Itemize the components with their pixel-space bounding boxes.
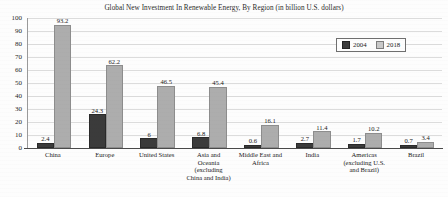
bar-value-label: 1.7: [353, 137, 361, 144]
bar-2004[interactable]: 2.7: [296, 143, 314, 149]
x-category-label-line: Africa: [231, 159, 291, 167]
x-category-label-line: Brazil: [386, 151, 446, 159]
bar-group: 0.616.1: [235, 18, 287, 148]
chart-title: Global New Investment In Renewable Energ…: [0, 4, 448, 12]
bar-group: 646.5: [131, 18, 183, 148]
bar-value-label: 3.4: [421, 135, 429, 142]
legend-item-2018[interactable]: 2018: [376, 41, 401, 49]
chart-legend: 2004 2018: [336, 38, 406, 52]
bar-value-label: 6: [148, 132, 151, 139]
bar-2018[interactable]: 16.1: [261, 125, 279, 148]
bar-value-label: 16.1: [264, 118, 276, 125]
bar-2018[interactable]: 46.5: [157, 86, 175, 148]
y-tick-label: 90: [15, 28, 22, 35]
bar-value-label: 0.7: [404, 138, 412, 145]
bar-2004[interactable]: 6: [140, 138, 158, 148]
bar-2018[interactable]: 62.2: [106, 65, 124, 148]
bar-2018[interactable]: 10.2: [365, 133, 383, 148]
bar-group: 6.845.4: [183, 18, 235, 148]
bar-value-label: 0.6: [249, 138, 257, 145]
y-tick-label: 10: [15, 132, 22, 139]
bar-group: 2.493.2: [27, 18, 79, 148]
legend-swatch-2004: [342, 41, 350, 49]
y-axis-tick-labels: 1009080706050403020100: [0, 18, 24, 148]
x-category-label-line: and Brazil): [334, 166, 394, 174]
y-tick-label: 50: [15, 80, 22, 87]
bar-value-label: 62.2: [109, 59, 121, 66]
y-tick-label: 80: [15, 41, 22, 48]
bar-value-label: 11.4: [316, 125, 327, 132]
bar-value-label: 6.8: [197, 131, 205, 138]
y-tick-label: 0: [19, 145, 23, 152]
x-axis-baseline: [24, 148, 443, 149]
legend-label-2004: 2004: [353, 42, 367, 49]
bar-2004[interactable]: 0.7: [400, 145, 418, 148]
bar-2004[interactable]: 2.4: [37, 143, 55, 148]
bar-value-label: 2.4: [41, 136, 49, 143]
x-category-label: Brazil: [386, 151, 446, 159]
y-tick-label: 60: [15, 67, 22, 74]
bar-2018[interactable]: 45.4: [209, 87, 227, 148]
y-tick-label: 100: [12, 15, 23, 22]
bar-chart-figure: Global New Investment In Renewable Energ…: [0, 0, 448, 197]
legend-swatch-2018: [376, 41, 384, 49]
bar-group: 2.711.4: [286, 18, 338, 148]
bar-value-label: 46.5: [160, 79, 172, 86]
bar-2018[interactable]: 11.4: [313, 131, 331, 148]
bar-value-label: 2.7: [301, 136, 309, 143]
bar-2004[interactable]: 0.6: [244, 145, 262, 148]
bar-2018[interactable]: 3.4: [417, 142, 435, 148]
bar-2004[interactable]: 1.7: [348, 144, 366, 148]
bar-2018[interactable]: 93.2: [54, 25, 72, 148]
bar-2004[interactable]: 24.3: [89, 114, 107, 148]
legend-item-2004[interactable]: 2004: [342, 41, 367, 49]
bar-group: 24.362.2: [79, 18, 131, 148]
x-category-label-line: (excluding U.S.: [334, 159, 394, 167]
bar-value-label: 93.2: [57, 18, 69, 25]
y-tick-label: 70: [15, 54, 22, 61]
y-tick-label: 20: [15, 119, 22, 126]
y-tick-label: 40: [15, 93, 22, 100]
legend-label-2018: 2018: [387, 42, 401, 49]
y-tick-label: 30: [15, 106, 22, 113]
bar-value-label: 10.2: [368, 126, 380, 133]
x-category-label-line: (excluding: [179, 166, 239, 174]
bar-2004[interactable]: 6.8: [192, 137, 210, 148]
x-axis-category-labels: ChinaEuropeUnited StatesAsia andOceania(…: [27, 151, 442, 197]
bar-value-label: 24.3: [92, 108, 104, 115]
bar-value-label: 45.4: [212, 80, 224, 87]
x-category-label-line: China and India): [179, 174, 239, 182]
